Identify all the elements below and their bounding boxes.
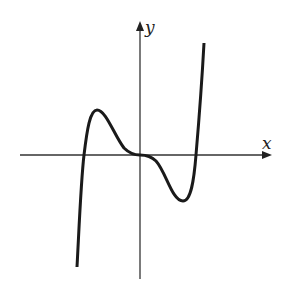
function-graph: x y xyxy=(0,0,282,284)
y-axis-arrow-icon xyxy=(136,21,144,31)
x-axis-label: x xyxy=(262,133,272,153)
y-axis-label: y xyxy=(144,17,155,37)
